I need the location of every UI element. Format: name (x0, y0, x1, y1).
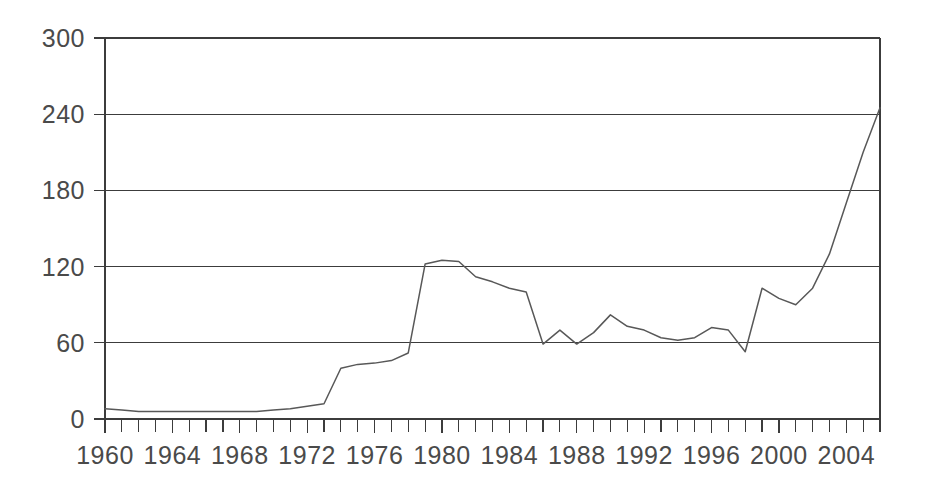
y-tick-label-0: 0 (71, 405, 85, 433)
x-tick-label-1968: 1968 (211, 441, 269, 469)
y-tick-label-240: 240 (42, 100, 85, 128)
gridlines-group (105, 38, 880, 419)
x-tick-label-2004: 2004 (817, 441, 875, 469)
line-chart: 060120180240300 196019641968197219761980… (0, 0, 928, 482)
x-tick-label-1988: 1988 (548, 441, 606, 469)
x-tick-label-2000: 2000 (750, 441, 808, 469)
x-tick-label-1980: 1980 (413, 441, 471, 469)
x-tick-label-1964: 1964 (144, 441, 202, 469)
x-tick-label-1992: 1992 (615, 441, 673, 469)
y-axis-tick-labels: 060120180240300 (42, 24, 85, 433)
y-tick-label-180: 180 (42, 176, 85, 204)
x-tick-label-1996: 1996 (683, 441, 741, 469)
y-axis-tick-marks (94, 38, 110, 419)
x-axis-tick-labels: 1960196419681972197619801984198819921996… (76, 441, 875, 469)
data-series-line-price (105, 108, 880, 412)
y-tick-label-120: 120 (42, 253, 85, 281)
chart-container: 060120180240300 196019641968197219761980… (0, 0, 928, 482)
x-tick-label-1984: 1984 (481, 441, 539, 469)
y-tick-label-300: 300 (42, 24, 85, 52)
x-tick-label-1972: 1972 (278, 441, 336, 469)
x-tick-label-1976: 1976 (346, 441, 404, 469)
x-tick-label-1960: 1960 (76, 441, 134, 469)
x-axis-tick-marks (105, 419, 880, 433)
y-tick-label-60: 60 (56, 329, 85, 357)
